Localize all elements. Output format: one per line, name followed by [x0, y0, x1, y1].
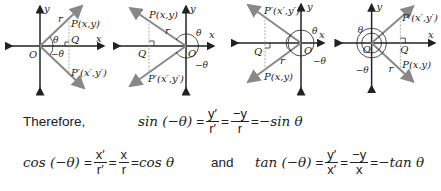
x-axis-label: x: [96, 33, 102, 44]
sin-identity: sin (−θ) = y′ r′ = −y r = −sin θ: [138, 105, 303, 137]
sin-eq-1: =: [196, 114, 204, 129]
origin-label: O: [29, 49, 37, 60]
point-p-label: P(x,y): [70, 18, 100, 29]
tan-fraction-2: −y x: [350, 148, 368, 177]
y-axis-label: y: [376, 1, 383, 12]
cos-identity: cos (−θ) = x′ r′ = x r = cos θ: [23, 146, 174, 178]
cos-eq-1: =: [84, 155, 92, 170]
sin-eq-3: =: [251, 114, 259, 129]
point-q-label: Q: [400, 44, 408, 55]
neg-theta-label: −θ: [356, 65, 369, 75]
neg-theta-label: −θ: [313, 56, 327, 66]
therefore-text: Therefore,: [23, 114, 85, 129]
tan-eq-2: =: [340, 155, 348, 170]
origin-label: O: [188, 48, 196, 59]
tan-rhs: −tan θ: [378, 154, 424, 170]
cos-fraction-2: x r: [119, 148, 130, 177]
quadrant-2-figure: y x O r P(x,y) Q P′(x′,y′) θ −θ: [110, 0, 220, 100]
x-axis-label: x: [209, 29, 215, 40]
origin-label: O: [363, 44, 371, 55]
point-p-prime-label: P′(x′,y′): [401, 12, 438, 23]
cos-rhs: cos θ: [139, 154, 174, 170]
neg-theta-label: −θ: [195, 60, 209, 70]
quadrant-1-figure: y x O r P(x,y) Q P′(x′,y′) θ −θ: [0, 0, 110, 100]
point-p-label: P(x,y): [401, 59, 431, 70]
tan-identity: tan (−θ) = y′ x′ = −y x = −tan θ: [255, 146, 424, 178]
tan-eq-3: =: [370, 155, 378, 170]
point-q-label: Q: [254, 46, 262, 57]
y-axis-label: y: [306, 1, 313, 12]
theta-label: θ: [196, 28, 202, 38]
r-label: r: [280, 55, 286, 66]
sin-rhs: −sin θ: [259, 113, 303, 129]
cos-eq-3: =: [131, 155, 139, 170]
point-q-label: Q: [138, 48, 146, 59]
sin-fraction-2: −y r: [231, 107, 249, 136]
theta-label: θ: [358, 25, 364, 35]
point-p-prime-label: P′(x′,y′): [263, 5, 300, 16]
diagram-quadrant-1: y x O r P(x,y) Q P′(x′,y′) θ −θ: [0, 0, 110, 100]
y-axis-label: y: [43, 3, 50, 14]
x-axis-label: x: [428, 29, 434, 40]
theta-label: θ: [53, 35, 59, 45]
point-p-prime-label: P′(x′,y′): [70, 67, 107, 78]
cos-eq-2: =: [109, 155, 117, 170]
point-p-label: P(x,y): [148, 9, 178, 20]
cos-lhs: cos (−θ): [23, 154, 80, 170]
point-p-prime-label: P′(x′,y′): [147, 73, 184, 84]
diagram-quadrant-3: y x O r P(x,y) Q P′(x′,y′) θ −θ: [220, 0, 330, 100]
x-axis-label: x: [319, 29, 325, 40]
tan-fraction-1: y′ x′: [325, 148, 338, 177]
diagram-quadrant-2: y x O r P(x,y) Q P′(x′,y′) θ −θ: [110, 0, 220, 100]
and-connector: and: [211, 146, 234, 178]
y-axis-label: y: [189, 3, 196, 14]
r-label: r: [58, 13, 64, 24]
origin-label: O: [304, 45, 312, 56]
quadrant-3-figure: y x O r P(x,y) Q P′(x′,y′) θ −θ: [220, 0, 330, 100]
sin-eq-2: =: [221, 114, 229, 129]
cos-fraction-1: x′ r′: [94, 148, 107, 177]
tan-eq-1: =: [315, 155, 323, 170]
and-text: and: [211, 155, 234, 170]
neg-theta-label: −θ: [51, 49, 65, 59]
point-p-label: P(x,y): [263, 71, 293, 82]
point-q-label: Q: [71, 34, 79, 45]
theta-label: θ: [312, 26, 318, 36]
quadrant-4-figure: y x O r P(x,y) Q P′(x′,y′) θ −θ: [330, 0, 440, 100]
therefore-line: Therefore,: [23, 105, 85, 137]
sin-lhs: sin (−θ): [138, 113, 192, 129]
sin-fraction-1: y′ r′: [206, 107, 219, 136]
tan-lhs: tan (−θ): [255, 154, 311, 170]
diagram-quadrant-4: y x O r P(x,y) Q P′(x′,y′) θ −θ: [330, 0, 440, 100]
